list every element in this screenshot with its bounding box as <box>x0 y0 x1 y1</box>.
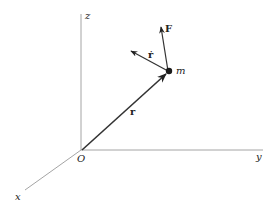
velocity-vector-label: ṙ <box>148 49 154 60</box>
position-vector-r <box>82 74 166 150</box>
particle-label: m <box>176 65 185 76</box>
force-vector-label: F <box>165 23 172 34</box>
position-vector-label: r <box>130 106 136 117</box>
y-axis-label: y <box>255 151 262 162</box>
x-axis <box>25 150 81 190</box>
x-axis-label: x <box>15 191 21 202</box>
z-axis-label: z <box>84 10 91 21</box>
origin-label: O <box>77 153 85 164</box>
vector-diagram: z y x O r ṙ F m <box>0 0 276 212</box>
particle-m <box>166 68 172 74</box>
